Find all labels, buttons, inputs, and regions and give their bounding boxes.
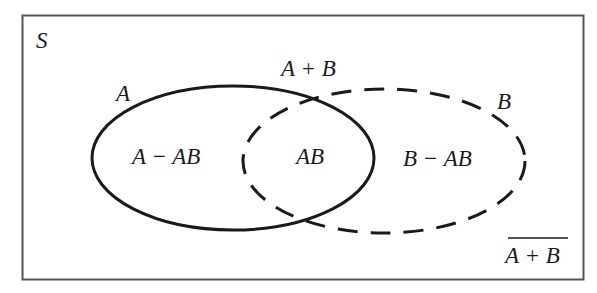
- venn-diagram: S A B A + B A − AB AB B − AB A + B: [0, 0, 597, 293]
- set-a-label: A: [114, 81, 131, 106]
- set-b-ellipse: [243, 89, 525, 233]
- complement-label: A + B: [503, 243, 560, 268]
- region-a-only-label: A − AB: [130, 144, 200, 169]
- union-label: A + B: [279, 56, 336, 81]
- region-b-only-label: B − AB: [403, 146, 472, 171]
- set-b-label: B: [497, 89, 511, 114]
- universe-label: S: [36, 28, 48, 53]
- region-intersection-label: AB: [294, 144, 324, 169]
